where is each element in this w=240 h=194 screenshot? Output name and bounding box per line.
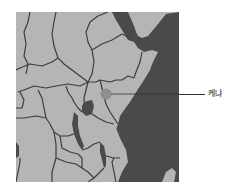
kenya-marker [101,89,112,100]
kenya-label: 케냐 [208,89,222,99]
map-canvas [16,12,179,182]
map-frame [16,12,179,182]
leader-line [179,94,205,95]
